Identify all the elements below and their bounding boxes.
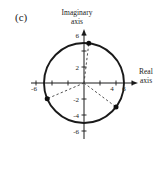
imaginary-axis-title-line2: axis — [71, 17, 83, 26]
real-axis-title-line1: Real — [139, 67, 153, 76]
real-axis-title-line2: axis — [140, 76, 152, 85]
figure-panel: (c) Imaginary axis Real axis -64662-2-4-… — [0, 0, 162, 188]
complex-plane-plot: Imaginary axis Real axis -64662-2-4-6 — [0, 0, 162, 188]
x-tick-label: -6 — [31, 85, 37, 93]
y-tick-label: -4 — [73, 112, 79, 120]
root-point — [45, 96, 50, 101]
y-tick-label: 6 — [76, 32, 80, 40]
imaginary-axis-arrow-icon — [82, 29, 87, 35]
root-point — [114, 105, 119, 110]
y-tick-label: -6 — [73, 128, 79, 136]
real-axis-arrow-icon — [132, 81, 138, 86]
x-tick-label: 4 — [110, 85, 114, 93]
y-tick-label: 2 — [76, 64, 80, 72]
root-point — [86, 41, 91, 46]
y-tick-label: -2 — [73, 96, 79, 104]
radius-dashed-line — [84, 43, 89, 83]
